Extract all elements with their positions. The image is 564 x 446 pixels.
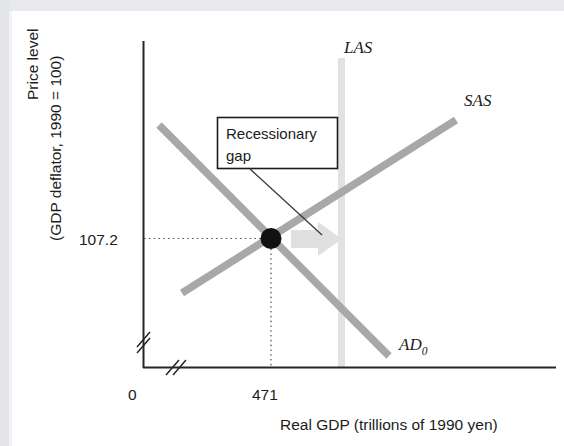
las-label: LAS <box>343 38 373 57</box>
recessionary-gap-arrow <box>291 222 342 256</box>
y-axis-title-line1: Price level <box>24 29 41 101</box>
sas-label: SAS <box>464 91 492 110</box>
economics-figure: Recessionary gap LAS SAS AD0 107.2 0 471… <box>0 0 564 446</box>
x-axis-title: Real GDP (trillions of 1990 yen) <box>280 416 498 433</box>
as-ad-chart: Recessionary gap LAS SAS AD0 107.2 0 471… <box>0 0 564 446</box>
ad0-label-text: AD <box>398 335 422 354</box>
ad0-label: AD0 <box>398 335 428 357</box>
origin-label: 0 <box>128 386 137 403</box>
x-tick-label-471: 471 <box>252 386 278 403</box>
ad0-label-subscript: 0 <box>422 345 428 357</box>
callout-line1: Recessionary <box>226 125 317 142</box>
y-tick-label-107: 107.2 <box>79 231 118 248</box>
equilibrium-dot <box>261 228 282 249</box>
callout-line2: gap <box>226 147 251 164</box>
y-axis-title-line2: (GDP deflator, 1990 = 100) <box>47 56 64 241</box>
